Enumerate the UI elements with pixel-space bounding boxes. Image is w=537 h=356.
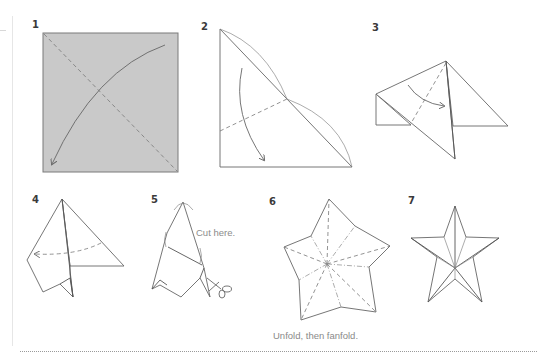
folded-point [152,202,210,297]
right-flap [62,199,124,266]
step-3-diagram [376,61,508,159]
step-4-diagram [27,199,124,297]
origami-diagrams [0,0,537,356]
step-6-diagram [284,199,390,320]
step-2-diagram [220,29,352,167]
unfolded-star-outline [284,199,390,320]
bottom-dotted-rule [20,351,537,352]
step-5-diagram [152,202,232,298]
step-1-diagram [43,33,178,172]
step-7-diagram [411,206,499,302]
right-flap [446,61,508,126]
star-ridge-lines [411,206,499,302]
scissors-icon [207,278,232,298]
